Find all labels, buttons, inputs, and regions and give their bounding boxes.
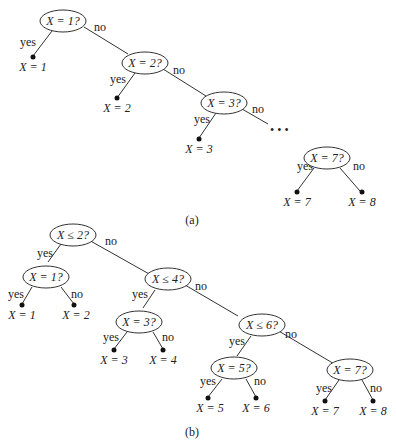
leaf-node: X = 2: [102, 96, 130, 116]
leaf-node: X = 1: [18, 55, 46, 75]
decision-node: X = 3?: [201, 92, 247, 114]
decision-node: X = 1?: [40, 10, 86, 32]
leaf-node: X = 7: [282, 190, 311, 210]
edge-label-yes: yes: [110, 72, 126, 86]
decision-node: X = 3?: [116, 311, 162, 333]
node-label: X = 1?: [28, 270, 62, 284]
leaf-label: X = 5: [195, 401, 223, 415]
node-label: X = 7?: [309, 151, 343, 165]
leaf-node: X = 7: [310, 399, 339, 419]
edge-label-yes: yes: [194, 112, 210, 126]
edge-label-no: no: [71, 287, 83, 301]
leaf-node: X = 6: [241, 396, 269, 416]
node-label: X = 7?: [332, 363, 366, 377]
decision-node: X = 5?: [211, 357, 257, 379]
edge-label-yes: yes: [37, 246, 53, 260]
subfigure-a: yes no yes no yes no yes no • • • X = 1?…: [18, 10, 375, 227]
leaf-node: X = 3: [99, 348, 127, 368]
leaf-label: X = 2: [102, 101, 130, 115]
edge-label-yes: yes: [103, 330, 119, 344]
edge-label-yes: yes: [200, 374, 216, 388]
leaf-label: X = 4: [148, 353, 176, 367]
leaf-node: X = 5: [195, 396, 223, 416]
edge-no: [84, 27, 128, 54]
edge-label-yes: yes: [132, 287, 148, 301]
edge-label-no: no: [353, 159, 365, 173]
edge-no: [87, 239, 151, 275]
edge-no: [185, 285, 238, 316]
edge-label-no: no: [195, 279, 207, 293]
edge-label-yes: yes: [316, 381, 332, 395]
leaf-label: X = 8: [347, 195, 375, 209]
leaf-label: X = 8: [358, 404, 386, 418]
leaf-node: X = 1: [7, 303, 35, 323]
node-label: X ≤ 2?: [56, 228, 89, 242]
node-label: X = 3?: [121, 315, 155, 329]
decision-node: X ≤ 6?: [239, 314, 285, 336]
caption-b: (b): [185, 425, 199, 439]
leaf-node: X = 4: [148, 348, 176, 368]
leaf-label: X = 3: [184, 142, 212, 156]
decision-node: X ≤ 2?: [50, 224, 96, 246]
node-label: X = 5?: [216, 361, 250, 375]
decision-node: X ≤ 4?: [145, 268, 191, 290]
leaf-node: X = 8: [358, 399, 386, 419]
edge-label-no: no: [162, 330, 174, 344]
edge-label-yes: yes: [229, 334, 245, 348]
edge-label-no: no: [285, 327, 297, 341]
leaf-label: X = 1: [7, 308, 35, 322]
leaf-label: X = 7: [282, 195, 311, 209]
leaf-label: X = 3: [99, 353, 127, 367]
node-label: X = 1?: [45, 14, 79, 28]
node-label: X = 3?: [206, 96, 240, 110]
leaf-node: X = 8: [347, 190, 375, 210]
ellipsis: • • •: [270, 123, 289, 137]
edge-label-no: no: [254, 374, 266, 388]
edge-label-no: no: [252, 102, 264, 116]
edge-label-no: no: [370, 381, 382, 395]
node-label: X ≤ 4?: [151, 272, 184, 286]
leaf-label: X = 6: [241, 401, 269, 415]
caption-a: (a): [185, 213, 198, 227]
leaf-node: X = 2: [61, 303, 89, 323]
leaf-node: X = 3: [184, 137, 212, 157]
node-label: X = 2?: [127, 56, 161, 70]
decision-node: X = 2?: [122, 52, 168, 74]
leaf-label: X = 1: [18, 60, 46, 74]
node-label: X ≤ 6?: [245, 318, 278, 332]
edge-label-no: no: [94, 20, 106, 34]
decision-tree-figure: yes no yes no yes no yes no • • • X = 1?…: [0, 0, 396, 444]
edge-label-no: no: [105, 234, 117, 248]
decision-node: X = 7?: [304, 147, 350, 169]
decision-node: X = 7?: [327, 359, 373, 381]
decision-node: X = 1?: [23, 266, 69, 288]
leaf-label: X = 7: [310, 404, 339, 418]
leaf-label: X = 2: [61, 308, 89, 322]
edge-label-no: no: [173, 63, 185, 77]
edge-label-yes: yes: [20, 35, 36, 49]
edge-label-yes: yes: [8, 287, 24, 301]
subfigure-b: yes no yes no yes no yes no yes no yes n…: [7, 224, 386, 439]
